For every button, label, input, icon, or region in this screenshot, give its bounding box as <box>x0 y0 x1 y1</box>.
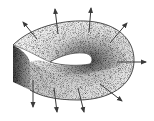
surface-diagram <box>0 0 154 121</box>
mobius-surface-illustration <box>0 0 154 121</box>
surface-side-band <box>13 45 30 90</box>
